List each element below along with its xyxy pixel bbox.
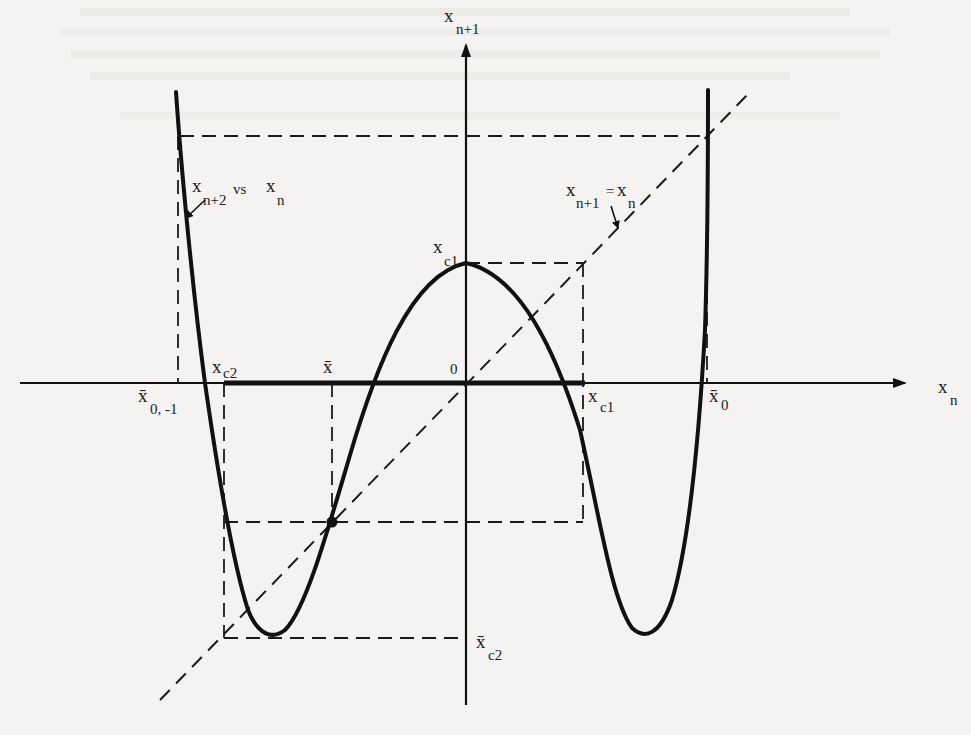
svg-text:x: x	[938, 376, 948, 397]
cobweb-construction-lines	[178, 136, 707, 638]
xbar-c2-label: x̄ c2	[476, 631, 502, 663]
diagonal-label: x n+1 = x n	[566, 179, 636, 211]
fixed-point-marker	[327, 517, 338, 528]
diagonal-label-pointer	[611, 206, 618, 228]
svg-text:x̄: x̄	[476, 631, 486, 652]
svg-text:n+1: n+1	[576, 195, 599, 211]
x-axis-label: x n	[938, 376, 958, 408]
svg-text:x: x	[212, 356, 222, 377]
svg-text:c1: c1	[600, 399, 614, 415]
svg-text:=: =	[606, 183, 614, 199]
xbar0-label: x̄ 0	[709, 385, 729, 413]
svg-text:x̄: x̄	[709, 385, 719, 406]
xc1-axis-label: x c1	[588, 385, 614, 415]
curve-label: x n+2 vs x n	[192, 175, 285, 208]
svg-text:vs: vs	[233, 181, 247, 197]
svg-text:0: 0	[721, 397, 729, 413]
second-iterate-curve	[176, 90, 708, 635]
origin-label: 0	[450, 361, 458, 377]
svg-text:x: x	[588, 385, 598, 406]
svg-text:0, -1: 0, -1	[150, 401, 178, 417]
svg-text:n+2: n+2	[203, 192, 226, 208]
return-map-diagram: x n+1 x n 0 x n+2 vs x n x n+1 = x n x	[0, 0, 971, 735]
svg-text:c1: c1	[444, 253, 458, 269]
svg-text:x: x	[266, 175, 276, 196]
svg-text:x: x	[433, 236, 443, 257]
svg-text:c2: c2	[488, 647, 502, 663]
svg-text:c2: c2	[223, 365, 237, 381]
svg-text:n: n	[277, 192, 285, 208]
xbar-label: x̄	[323, 356, 333, 377]
svg-text:x: x	[444, 5, 454, 26]
svg-text:x̄: x̄	[138, 385, 148, 406]
svg-text:x: x	[617, 179, 627, 200]
xc1-peak-label: x c1	[433, 236, 458, 269]
svg-text:x: x	[566, 179, 576, 200]
xbar0-minus1-label: x̄ 0, -1	[138, 385, 178, 417]
svg-text:n: n	[628, 195, 636, 211]
xc2-axis-label: x c2	[212, 356, 237, 381]
diagram-canvas: x n+1 x n 0 x n+2 vs x n x n+1 = x n x	[0, 0, 971, 735]
svg-text:x: x	[192, 175, 202, 196]
svg-text:n: n	[950, 392, 958, 408]
svg-text:n+1: n+1	[456, 21, 479, 37]
